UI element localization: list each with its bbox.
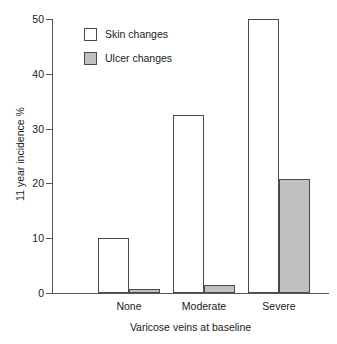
x-axis-title: Varicose veins at baseline — [52, 321, 329, 333]
legend-swatch-skin-changes — [84, 28, 97, 41]
bar-skin-moderate — [173, 115, 204, 293]
bar-skin-none — [98, 238, 129, 293]
y-tick-mark-30 — [46, 129, 52, 130]
bar-chart-figure: 50 40 30 20 10 0 11 year incidence % — [0, 0, 337, 344]
legend-swatch-ulcer-changes — [84, 52, 97, 65]
y-tick-mark-20 — [46, 183, 52, 184]
bar-ulcer-moderate — [204, 285, 235, 293]
legend-label-skin-changes: Skin changes — [105, 28, 168, 40]
y-tick-label-0: 0 — [2, 288, 44, 298]
legend-item-skin-changes: Skin changes — [84, 24, 172, 44]
y-tick-mark-40 — [46, 74, 52, 75]
legend-label-ulcer-changes: Ulcer changes — [105, 52, 172, 64]
x-axis-line — [52, 293, 329, 294]
y-tick-mark-50 — [46, 19, 52, 20]
y-tick-label-10: 10 — [2, 233, 44, 243]
bar-skin-severe — [248, 19, 279, 293]
y-axis-title: 11 year incidence % — [14, 74, 26, 234]
bar-ulcer-severe — [279, 179, 310, 293]
y-tick-label-50: 50 — [2, 14, 44, 24]
legend-item-ulcer-changes: Ulcer changes — [84, 48, 172, 68]
y-tick-mark-10 — [46, 238, 52, 239]
x-tick-label-moderate: Moderate — [164, 300, 244, 312]
chart-legend: Skin changes Ulcer changes — [84, 24, 172, 72]
x-tick-label-none: None — [89, 300, 169, 312]
x-tick-label-severe: Severe — [239, 300, 319, 312]
